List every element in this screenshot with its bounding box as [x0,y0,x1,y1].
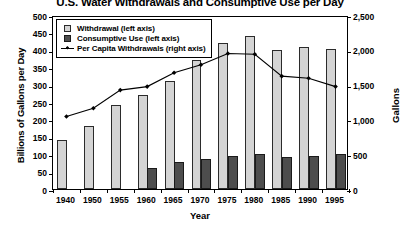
x-axis-title: Year [0,210,400,221]
y-axis-left-tick-label: 300 [33,82,47,91]
y-axis-left-tick-label: 500 [33,13,47,22]
legend-label: Withdrawal (left axis) [77,24,155,33]
y-axis-left-tick-label: 400 [33,47,47,56]
y-axis-left-tick-label: 200 [33,117,47,126]
y-axis-right-tick-label: 2,500 [353,13,374,22]
y-axis-left-tick-label: 100 [33,152,47,161]
chart-legend: Withdrawal (left axis) Consumptive Use (… [56,19,212,58]
y-axis-left-tick-label: 50 [38,169,47,178]
legend-label: Consumptive Use (left axis) [77,34,179,43]
x-axis-tick-label: 1965 [164,195,183,205]
y-axis-left-title: Billions of Gallons per Day [15,26,26,186]
y-axis-right-tick-label: 2,000 [353,47,374,56]
line-markers [64,51,338,119]
y-axis-left-tick-label: 450 [33,30,47,39]
legend-label: Per Capita Withdrawals (right axis) [77,44,205,53]
y-axis-left-tick-label: 0 [42,187,47,196]
x-axis-tick-label: 1975 [217,195,236,205]
line-marker [64,114,69,119]
y-axis-right-tick-label: 0 [353,187,358,196]
line-marker [145,84,150,89]
x-axis-tick-label: 1960 [137,195,156,205]
x-axis-tick-label: 1990 [298,195,317,205]
line-marker [306,76,311,81]
x-axis-tick-label: 1950 [83,195,102,205]
y-axis-left-tick-label: 350 [33,65,47,74]
y-axis-left-tick-label: 150 [33,134,47,143]
y-axis-right-tick-label: 1,500 [353,82,374,91]
x-axis-tick-label: 1955 [110,195,129,205]
y-axis-right-tick-label: 1,000 [353,117,374,126]
y-axis-left-tick-label: 250 [33,100,47,109]
line-marker-icon [61,44,74,53]
x-axis-tick-label: 1970 [191,195,210,205]
y-axis-right-tick-label: 500 [353,152,367,161]
y-axis-right-title: Gallons [390,51,400,161]
chart-container: U.S. Water Withdrawals and Consumptive U… [0,0,400,229]
x-axis-tick [349,189,350,193]
legend-item-per-capita: Per Capita Withdrawals (right axis) [61,44,205,54]
legend-item-consumptive-use: Consumptive Use (left axis) [61,34,205,44]
x-axis-tick-label: 1995 [325,195,344,205]
x-axis-tick-label: 1985 [271,195,290,205]
legend-item-withdrawal: Withdrawal (left axis) [61,24,205,34]
swatch-dark-icon [61,34,74,43]
x-axis-tick-label: 1940 [56,195,75,205]
line-marker [199,62,204,67]
line-marker [172,70,177,75]
line-marker [333,84,338,89]
x-axis-tick-label: 1980 [244,195,263,205]
line-marker [226,51,231,56]
swatch-light-icon [61,24,74,33]
chart-title: U.S. Water Withdrawals and Consumptive U… [0,0,400,8]
